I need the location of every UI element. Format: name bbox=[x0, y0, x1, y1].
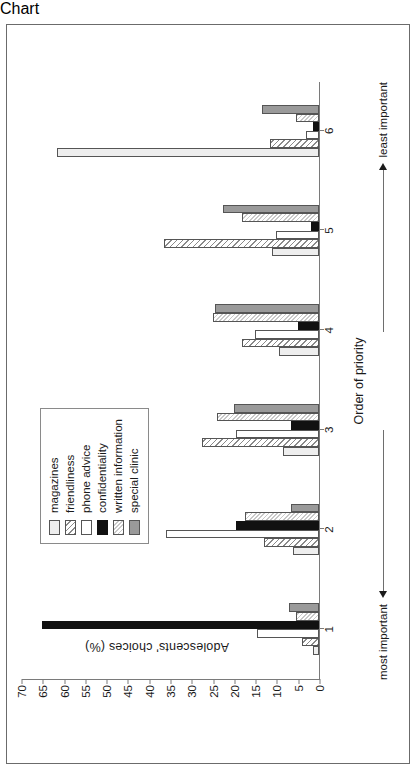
bar-special-clinic bbox=[289, 603, 319, 612]
bar-special-clinic bbox=[262, 105, 319, 114]
bar-written-information bbox=[245, 512, 320, 521]
bar-group-5 bbox=[21, 181, 319, 281]
bar-written-information bbox=[213, 313, 319, 322]
y-tick-mark bbox=[22, 679, 23, 684]
bar-magazines bbox=[283, 447, 319, 456]
x-tick-label: 2 bbox=[323, 526, 335, 532]
legend: magazinesfriendlinessphone adviceconfide… bbox=[40, 408, 149, 544]
bar-magazines bbox=[57, 148, 319, 157]
y-tick-mark bbox=[256, 679, 257, 684]
x-tick-label: 6 bbox=[323, 128, 335, 134]
bar-magazines bbox=[313, 646, 319, 655]
bar-magazines bbox=[272, 248, 319, 257]
x-tick-mark bbox=[319, 529, 324, 530]
bar-phone-advice bbox=[257, 629, 319, 638]
bar-friendliness bbox=[164, 239, 319, 248]
legend-label: phone advice bbox=[80, 445, 93, 513]
bar-special-clinic bbox=[215, 304, 319, 313]
priority-arrows: most important least important bbox=[374, 82, 396, 680]
bar-friendliness bbox=[242, 339, 319, 348]
bar-friendliness bbox=[270, 139, 319, 148]
legend-swatch-icon bbox=[97, 520, 108, 535]
bar-confidentiality bbox=[291, 421, 319, 430]
bar-confidentiality bbox=[313, 122, 319, 131]
bar-friendliness bbox=[202, 438, 319, 447]
bar-written-information bbox=[242, 213, 319, 222]
y-tick-mark bbox=[298, 679, 299, 684]
legend-label: written information bbox=[112, 419, 125, 513]
y-tick-mark bbox=[128, 679, 129, 684]
y-tick-mark bbox=[107, 679, 108, 684]
legend-item-written-information: written information bbox=[112, 419, 125, 535]
plot-area: Adolescents' choices (%) 051015202530354… bbox=[22, 82, 320, 680]
arrow-head-left-icon bbox=[379, 591, 387, 598]
legend-list: magazinesfriendlinessphone adviceconfide… bbox=[48, 419, 141, 535]
most-important-arrow: most important bbox=[374, 430, 392, 680]
legend-item-magazines: magazines bbox=[48, 419, 61, 535]
x-axis-title: Order of priority bbox=[352, 82, 366, 680]
bar-friendliness bbox=[264, 538, 319, 547]
legend-item-friendliness: friendliness bbox=[64, 419, 77, 535]
legend-swatch-icon bbox=[49, 520, 60, 535]
legend-swatch-icon bbox=[65, 520, 76, 535]
bar-confidentiality bbox=[298, 322, 319, 331]
arrow-line bbox=[383, 170, 384, 332]
x-tick-label: 4 bbox=[323, 327, 335, 333]
legend-label: confidentiality bbox=[96, 443, 109, 513]
bar-written-information bbox=[296, 114, 319, 123]
x-tick-label: 3 bbox=[323, 427, 335, 433]
legend-item-phone-advice: phone advice bbox=[80, 419, 93, 535]
y-tick-mark bbox=[277, 679, 278, 684]
x-tick-label: 1 bbox=[323, 626, 335, 632]
legend-label: magazines bbox=[48, 457, 61, 513]
y-tick-mark bbox=[320, 679, 321, 684]
rotated-figure: Adolescents' choices (%) 051015202530354… bbox=[0, 18, 418, 758]
chart-page: Adolescents' choices (%) 051015202530354… bbox=[0, 18, 418, 768]
least-important-label: least important bbox=[377, 82, 389, 157]
legend-swatch-icon bbox=[81, 520, 92, 535]
bar-phone-advice bbox=[236, 430, 319, 439]
bar-written-information bbox=[217, 413, 319, 422]
bar-magazines bbox=[293, 547, 319, 556]
figure: Adolescents' choices (%) 051015202530354… bbox=[0, 18, 418, 758]
x-tick-mark bbox=[319, 329, 324, 330]
bar-confidentiality bbox=[42, 621, 319, 630]
most-important-label: most important bbox=[377, 604, 389, 680]
y-tick-mark bbox=[192, 679, 193, 684]
legend-label: special clinic bbox=[128, 448, 141, 513]
bar-group-4 bbox=[21, 280, 319, 380]
y-tick-mark bbox=[213, 679, 214, 684]
bar-phone-advice bbox=[306, 131, 319, 140]
y-tick-mark bbox=[43, 679, 44, 684]
legend-item-special-clinic: special clinic bbox=[128, 419, 141, 535]
arrow-line bbox=[383, 430, 384, 591]
bar-phone-advice bbox=[166, 530, 319, 539]
legend-item-confidentiality: confidentiality bbox=[96, 419, 109, 535]
bar-special-clinic bbox=[223, 205, 319, 214]
bar-confidentiality bbox=[236, 521, 319, 530]
bar-phone-advice bbox=[276, 231, 319, 240]
bar-friendliness bbox=[302, 638, 319, 647]
arrow-head-right-icon bbox=[379, 163, 387, 170]
x-tick-mark bbox=[319, 628, 324, 629]
x-tick-label: 5 bbox=[323, 227, 335, 233]
x-tick-mark bbox=[319, 130, 324, 131]
y-tick-mark bbox=[234, 679, 235, 684]
x-tick-mark bbox=[319, 429, 324, 430]
bar-confidentiality bbox=[311, 222, 320, 231]
legend-label: friendliness bbox=[64, 455, 77, 513]
y-tick-mark bbox=[149, 679, 150, 684]
bar-written-information bbox=[296, 612, 319, 621]
least-important-arrow: least important bbox=[374, 82, 392, 332]
bar-magazines bbox=[279, 347, 319, 356]
bar-special-clinic bbox=[291, 504, 319, 513]
bar-phone-advice bbox=[255, 330, 319, 339]
bar-group-1 bbox=[21, 579, 319, 679]
y-tick-mark bbox=[85, 679, 86, 684]
legend-swatch-icon bbox=[129, 520, 140, 535]
y-tick-mark bbox=[171, 679, 172, 684]
bar-special-clinic bbox=[234, 404, 319, 413]
bar-group-6 bbox=[21, 81, 319, 181]
y-tick-mark bbox=[64, 679, 65, 684]
legend-swatch-icon bbox=[113, 520, 124, 535]
